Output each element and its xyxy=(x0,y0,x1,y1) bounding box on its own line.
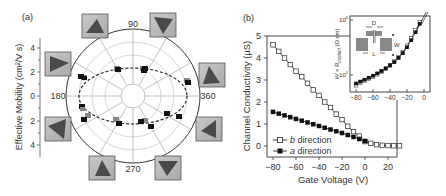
svg-text:4: 4 xyxy=(256,53,261,63)
svg-text:2: 2 xyxy=(30,116,35,126)
svg-text:3: 3 xyxy=(256,75,261,85)
polar-plot xyxy=(66,29,200,163)
svg-text:−80: −80 xyxy=(265,162,280,172)
panel-b-label: (b) xyxy=(243,13,254,23)
svg-text:−20: −20 xyxy=(334,162,349,172)
thumbnail-image xyxy=(45,52,71,76)
svg-text:D: D xyxy=(372,20,377,26)
svg-text:−40: −40 xyxy=(384,94,395,101)
svg-text:−40: −40 xyxy=(311,162,326,172)
svg-text:180: 180 xyxy=(50,91,65,101)
legend: b direction a direction xyxy=(273,135,332,156)
inset-plot: 106 105 −80 −60 −40 −20 0 W × Rcontact (… xyxy=(334,12,430,101)
svg-text:5: 5 xyxy=(256,31,261,41)
svg-text:−80: −80 xyxy=(350,94,361,101)
thumbnail-image xyxy=(89,156,115,180)
figure: (a) 4 2 0 2 4 Effective Mobility (cm²/V … xyxy=(0,0,446,196)
svg-text:2: 2 xyxy=(30,67,35,77)
thumbnail-image xyxy=(82,14,108,38)
svg-text:−60: −60 xyxy=(367,94,378,101)
plot-b-y-tick-labels: 5 4 3 2 1 0 xyxy=(256,31,261,151)
plot-b-x-tick-labels: −80 −60 −40 −20 0 20 xyxy=(265,162,393,172)
svg-text:270: 270 xyxy=(125,164,140,174)
polar-y-axis xyxy=(37,38,40,157)
svg-text:−60: −60 xyxy=(288,162,303,172)
polar-y-label: Effective Mobility (cm²/V s) xyxy=(14,44,24,150)
svg-text:90: 90 xyxy=(128,19,138,29)
svg-text:W: W xyxy=(394,42,400,48)
svg-text:0: 0 xyxy=(362,162,367,172)
plot-b-y-label: Channel Conductivity (µS) xyxy=(241,41,252,152)
thumbnail-image xyxy=(45,117,71,141)
thumbnail-image xyxy=(199,63,225,87)
thumbnail-image xyxy=(196,117,222,141)
svg-text:1: 1 xyxy=(256,119,261,129)
svg-text:0: 0 xyxy=(256,141,261,151)
svg-text:0: 0 xyxy=(30,91,35,101)
plot-b-x-label: Gate Voltage (V) xyxy=(298,174,368,185)
svg-text:−20: −20 xyxy=(401,94,412,101)
legend-b-direction: b direction xyxy=(290,135,332,145)
thumbnail-image xyxy=(155,156,181,180)
svg-text:4: 4 xyxy=(30,43,35,53)
svg-text:360: 360 xyxy=(200,91,215,101)
svg-text:0: 0 xyxy=(422,94,426,101)
svg-text:2: 2 xyxy=(256,97,261,107)
panel-a-label: (a) xyxy=(22,12,33,22)
thumbnail-image xyxy=(150,13,176,37)
svg-text:20: 20 xyxy=(383,162,393,172)
polar-y-ticks: 4 2 0 2 4 xyxy=(30,43,35,150)
svg-text:105: 105 xyxy=(339,70,349,78)
legend-a-direction: a direction xyxy=(290,146,332,156)
svg-text:106: 106 xyxy=(339,15,349,23)
svg-text:4: 4 xyxy=(30,140,35,150)
